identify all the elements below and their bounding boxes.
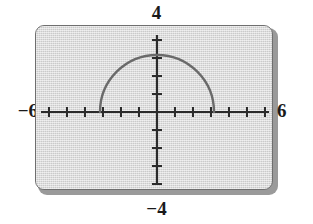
x-min-label: −6: [4, 101, 38, 120]
y-max-label: 4: [0, 3, 313, 22]
y-min-label: −4: [0, 199, 313, 218]
plot-area: [36, 26, 273, 190]
calculator-graph-figure: 4 −6: [0, 0, 313, 224]
calculator-screen: [35, 25, 273, 190]
x-max-label: 6: [277, 101, 309, 120]
